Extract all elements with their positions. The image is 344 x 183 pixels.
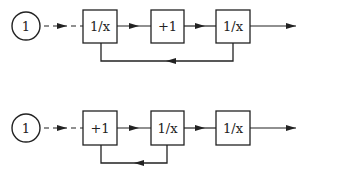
input-label: 1 xyxy=(22,121,30,136)
output-arrow xyxy=(250,125,296,131)
block-diagram: 1 1/x +1 1/x xyxy=(0,0,344,183)
input-label: 1 xyxy=(22,19,30,34)
block-label: 1/x xyxy=(158,121,179,136)
input-node: 1 xyxy=(12,12,40,40)
block-label: 1/x xyxy=(223,121,244,136)
connector-arrow xyxy=(117,125,151,131)
feedback-loop xyxy=(101,43,233,64)
block-2: +1 xyxy=(151,10,184,43)
dashed-input-arrow xyxy=(44,23,83,29)
block-label: 1/x xyxy=(90,19,111,34)
block-1: +1 xyxy=(83,111,117,145)
block-2: 1/x xyxy=(151,111,184,145)
connector-arrow xyxy=(184,125,216,131)
connector-arrow xyxy=(117,23,151,29)
block-label: +1 xyxy=(90,121,109,136)
output-arrow xyxy=(250,23,296,29)
block-3: 1/x xyxy=(216,10,250,43)
block-3: 1/x xyxy=(216,111,250,145)
diagram-row-2: 1 +1 1/x 1/x xyxy=(12,111,296,166)
diagram-row-1: 1 1/x +1 1/x xyxy=(12,10,296,64)
dashed-input-arrow xyxy=(44,125,83,131)
block-label: +1 xyxy=(158,19,177,34)
block-label: 1/x xyxy=(223,19,244,34)
block-1: 1/x xyxy=(83,10,117,43)
connector-arrow xyxy=(184,23,216,29)
input-node: 1 xyxy=(12,114,40,142)
feedback-loop xyxy=(101,145,167,166)
